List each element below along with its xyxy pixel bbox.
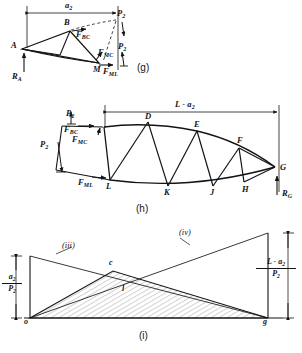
- panel-i-right-ordinate-label: L - a2 P2: [256, 258, 296, 280]
- panel-g-force-FMC: FMC: [98, 48, 113, 58]
- caption-g: (g): [137, 62, 149, 73]
- panel-g-node-B: B: [64, 18, 70, 27]
- panel-i-left-ordinate-label: a2 P2: [2, 273, 22, 295]
- caption-i: (i): [139, 330, 148, 341]
- panel-g-load-P2-top: P2: [117, 9, 125, 19]
- panel-g-geometry: [22, 6, 128, 72]
- panel-g-force-FBC: FBC: [76, 30, 90, 40]
- panel-i-line-label-iii: (iii): [62, 240, 75, 250]
- panel-h-node-H: H: [242, 185, 249, 194]
- panel-h-node-F: F: [237, 136, 243, 145]
- panel-g-node-M: M: [93, 65, 101, 74]
- panel-h-reaction-RG: RG: [282, 189, 292, 199]
- panel-h-node-D: D: [145, 112, 151, 121]
- panel-i-point-c: c: [109, 259, 113, 267]
- panel-h-load-P2-top: P2: [66, 109, 74, 119]
- panel-i-line-label-iv: (iv): [179, 227, 191, 237]
- panel-h-node-G: G: [280, 163, 286, 172]
- panel-h-force-FML: FML: [78, 178, 93, 188]
- panel-i-area-label: l: [122, 285, 124, 293]
- figure-linework: [0, 0, 302, 353]
- panel-g-load-P2-side: P2: [118, 42, 126, 52]
- panel-h-node-L: L: [106, 182, 111, 191]
- panel-h-node-J: J: [210, 188, 214, 197]
- panel-h-dimension-label: L - a2: [175, 100, 195, 110]
- panel-g-node-A: A: [11, 41, 17, 50]
- panel-h-force-FMC: FMC: [72, 135, 87, 145]
- panel-i-point-g: g: [263, 318, 267, 326]
- panel-g-dimension-label: a2: [65, 1, 72, 11]
- panel-h-node-K: K: [164, 188, 170, 197]
- panel-g-reaction-RA: RA: [12, 72, 22, 82]
- engineering-figure: a2 A B M RA FBC FMC FML P2 P2 (g) L - a2…: [0, 0, 302, 353]
- panel-i-geometry: [11, 233, 294, 318]
- panel-h-load-P2-left: P2: [40, 140, 48, 150]
- panel-i-point-o: o: [24, 318, 28, 326]
- panel-g-force-FML: FML: [103, 67, 118, 77]
- panel-h-node-E: E: [194, 120, 200, 129]
- caption-h: (h): [136, 203, 148, 214]
